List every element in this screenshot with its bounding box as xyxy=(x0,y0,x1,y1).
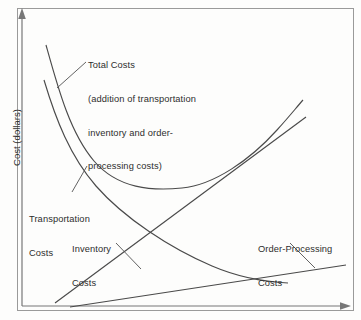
leader-total-costs xyxy=(57,62,86,88)
y-axis-arrow-icon xyxy=(18,8,26,19)
annotation-order-processing-costs-line1: Order-Processing xyxy=(258,244,332,255)
leader-inventory-costs xyxy=(116,243,141,269)
annotation-total-costs-line3: inventory and order- xyxy=(88,128,196,139)
annotation-inventory-costs: Inventory Costs xyxy=(72,222,111,312)
annotation-total-costs: Total Costs (addition of transportation … xyxy=(88,38,196,195)
annotation-inventory-costs-line2: Costs xyxy=(72,278,111,289)
y-axis xyxy=(18,8,26,306)
annotation-total-costs-line1: Total Costs xyxy=(88,60,196,71)
annotation-order-processing-costs-line2: Costs xyxy=(258,278,332,289)
annotation-total-costs-line2: (addition of transportation xyxy=(88,94,196,105)
x-axis-arrow-icon xyxy=(340,302,351,310)
cost-tradeoff-chart: Cost (dollars) Total Costs (addi xyxy=(0,0,361,320)
annotation-total-costs-line4: processing costs) xyxy=(88,161,196,172)
annotation-inventory-costs-line1: Inventory xyxy=(72,244,111,255)
annotation-order-processing-costs: Order-Processing Costs xyxy=(258,222,332,312)
leader-transportation-costs xyxy=(72,166,87,192)
